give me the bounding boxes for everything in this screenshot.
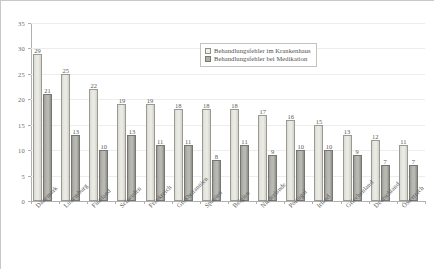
bar-value-label: 7 (384, 158, 387, 165)
y-axis-tick-label: 0 (1, 198, 25, 205)
bar: 13 (343, 135, 352, 201)
bar-value-label: 8 (215, 153, 218, 160)
legend-item-krankenhaus: Behandlungsfehler im Krankenhaus (205, 47, 311, 54)
x-axis-tick-mark (256, 201, 257, 204)
x-axis-tick-mark (144, 201, 145, 204)
x-axis-tick-mark (228, 201, 229, 204)
bar-value-label: 13 (344, 128, 351, 135)
bar-value-label: 18 (203, 102, 210, 109)
y-axis-tick-label: 30 (1, 45, 25, 52)
legend-item-medikation: Behandlungsfehler bei Medikation (205, 55, 311, 62)
x-axis-tick-mark (284, 201, 285, 204)
bar-group: 127 (369, 23, 397, 201)
bar-value-label: 15 (316, 118, 323, 125)
y-axis-tick-label: 20 (1, 96, 25, 103)
y-axis-tick-mark (28, 150, 31, 151)
bar-group: 2210 (87, 23, 115, 201)
legend-label: Behandlungsfehler im Krankenhaus (214, 47, 311, 54)
y-axis-tick-label: 15 (1, 121, 25, 128)
x-axis-tick-mark (341, 201, 342, 204)
bar-value-label: 21 (44, 87, 51, 94)
bar: 17 (258, 115, 267, 201)
x-axis-tick-mark (172, 201, 173, 204)
bar-value-label: 18 (231, 102, 238, 109)
bar-chart: 2921251322101913191118111881811179161015… (0, 0, 434, 269)
bar-value-label: 13 (72, 128, 79, 135)
legend-label: Behandlungsfehler bei Medikation (214, 55, 307, 62)
bar-value-label: 29 (34, 47, 41, 54)
bar: 22 (89, 89, 98, 201)
bar: 16 (286, 120, 295, 201)
bar-value-label: 18 (175, 102, 182, 109)
y-axis-tick-label: 10 (1, 147, 25, 154)
legend-swatch-icon (205, 48, 211, 54)
bar-value-label: 19 (147, 97, 154, 104)
bar-value-label: 11 (157, 138, 163, 145)
y-axis-tick-mark (28, 99, 31, 100)
x-axis-tick-mark (87, 201, 88, 204)
bar-value-label: 25 (62, 67, 69, 74)
y-axis-tick-label: 5 (1, 172, 25, 179)
x-axis-tick-mark (312, 201, 313, 204)
bar-value-label: 10 (298, 143, 305, 150)
x-axis-tick-mark (31, 201, 32, 204)
bar-value-label: 9 (355, 148, 358, 155)
x-axis-tick-mark (200, 201, 201, 204)
bar-group: 2513 (59, 23, 87, 201)
legend-swatch-icon (205, 56, 211, 62)
x-axis-tick-mark (115, 201, 116, 204)
y-axis-tick-mark (28, 125, 31, 126)
bar: 19 (146, 104, 155, 201)
chart-legend: Behandlungsfehler im Krankenhaus Behandl… (200, 43, 317, 67)
bar: 11 (399, 145, 408, 201)
bar: 18 (202, 109, 211, 201)
bar-value-label: 19 (119, 97, 126, 104)
bar-value-label: 10 (101, 143, 108, 150)
bar: 12 (371, 140, 380, 201)
bar: 21 (43, 94, 52, 201)
bar: 18 (230, 109, 239, 201)
y-axis-tick-mark (28, 48, 31, 49)
y-axis-tick-label: 35 (1, 20, 25, 27)
y-axis-tick-mark (28, 74, 31, 75)
y-axis-tick-mark (28, 176, 31, 177)
bar-value-label: 13 (129, 128, 136, 135)
x-axis-tick-mark (59, 201, 60, 204)
bar-group: 1811 (172, 23, 200, 201)
bar-group: 1913 (115, 23, 143, 201)
bar: 29 (33, 54, 42, 201)
bar-group: 117 (397, 23, 425, 201)
bar-value-label: 12 (372, 133, 379, 140)
bar-group: 139 (341, 23, 369, 201)
bar-group: 2921 (31, 23, 59, 201)
x-axis-tick-mark (397, 201, 398, 204)
bar-value-label: 11 (185, 138, 191, 145)
y-axis-tick-label: 25 (1, 70, 25, 77)
bar-group: 1911 (144, 23, 172, 201)
bar-value-label: 16 (288, 113, 295, 120)
bar-value-label: 17 (259, 108, 266, 115)
bar-value-label: 7 (412, 158, 415, 165)
bar: 25 (61, 74, 70, 201)
bar-value-label: 22 (91, 82, 98, 89)
bar-value-label: 11 (400, 138, 406, 145)
bar: 19 (117, 104, 126, 201)
bar: 18 (174, 109, 183, 201)
y-axis-tick-mark (28, 23, 31, 24)
bar-value-label: 11 (241, 138, 247, 145)
x-axis-tick-mark (425, 201, 426, 204)
bar-value-label: 10 (326, 143, 333, 150)
bar: 15 (314, 125, 323, 201)
bar-value-label: 9 (271, 148, 274, 155)
x-axis-tick-mark (369, 201, 370, 204)
